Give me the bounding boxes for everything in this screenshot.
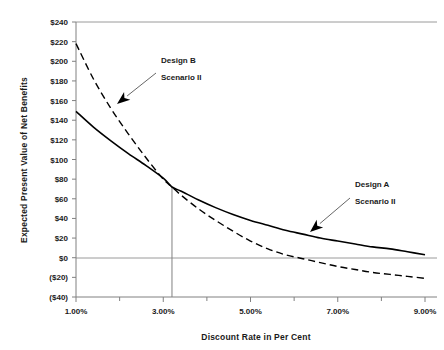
x-axis-title: Discount Rate in Per Cent: [201, 332, 310, 342]
y-axis-tick-label: $180: [50, 77, 68, 86]
y-axis-tick-label: $240: [50, 18, 68, 27]
x-axis-tick-label: 9.00%: [414, 307, 437, 316]
annotation-design-b-line1: Design B: [161, 56, 196, 65]
x-axis-tick-label: 1.00%: [65, 307, 88, 316]
y-axis-tick-label: $160: [50, 97, 68, 106]
x-axis-tick-label: 7.00%: [326, 307, 349, 316]
y-axis-tick-label: $120: [50, 136, 68, 145]
y-axis-tick-label: $200: [50, 57, 68, 66]
y-axis-title: Expected Present Value of Net Benefits: [19, 77, 29, 243]
y-axis-tick-label: $100: [50, 156, 68, 165]
y-axis-tick-label: $60: [55, 195, 69, 204]
chart-figure: $240$220$200$180$160$140$120$100$80$60$4…: [0, 0, 444, 350]
y-axis-tick-label: ($20): [49, 273, 68, 282]
y-axis-tick-label: $220: [50, 38, 68, 47]
net-benefits-line-chart: $240$220$200$180$160$140$120$100$80$60$4…: [0, 0, 444, 350]
y-axis-tick-label: ($40): [49, 293, 68, 302]
annotation-design-a-line2: Scenario II: [355, 197, 395, 206]
y-axis-tick-label: $40: [55, 214, 69, 223]
y-axis-tick-label: $80: [55, 175, 69, 184]
y-axis-tick-label: $20: [55, 234, 69, 243]
y-axis-tick-label: $0: [59, 254, 68, 263]
x-axis-tick-label: 3.00%: [152, 307, 175, 316]
y-axis-tick-label: $140: [50, 116, 68, 125]
annotation-design-a-line1: Design A: [355, 180, 390, 189]
x-axis-tick-label: 5.00%: [239, 307, 262, 316]
annotation-design-b-line2: Scenario II: [161, 73, 201, 82]
